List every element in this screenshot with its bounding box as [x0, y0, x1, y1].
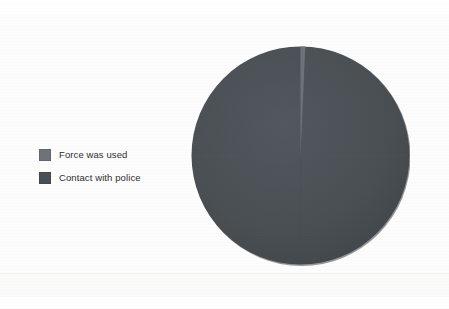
chart-legend: Force was used Contact with police: [39, 143, 189, 189]
legend-label-force-was-used: Force was used: [59, 149, 127, 161]
pie-chart: [191, 45, 410, 266]
legend-swatch-contact-with-police: [39, 172, 51, 184]
chart-screenshot: Force was used Contact with police: [0, 0, 449, 309]
legend-item-force-was-used[interactable]: Force was used: [39, 143, 189, 166]
legend-item-contact-with-police[interactable]: Contact with police: [39, 166, 189, 189]
legend-swatch-force-was-used: [39, 149, 51, 161]
legend-label-contact-with-police: Contact with police: [59, 172, 141, 184]
pie-chart-svg: [191, 45, 410, 266]
plot-area: Force was used Contact with police: [0, 0, 449, 309]
